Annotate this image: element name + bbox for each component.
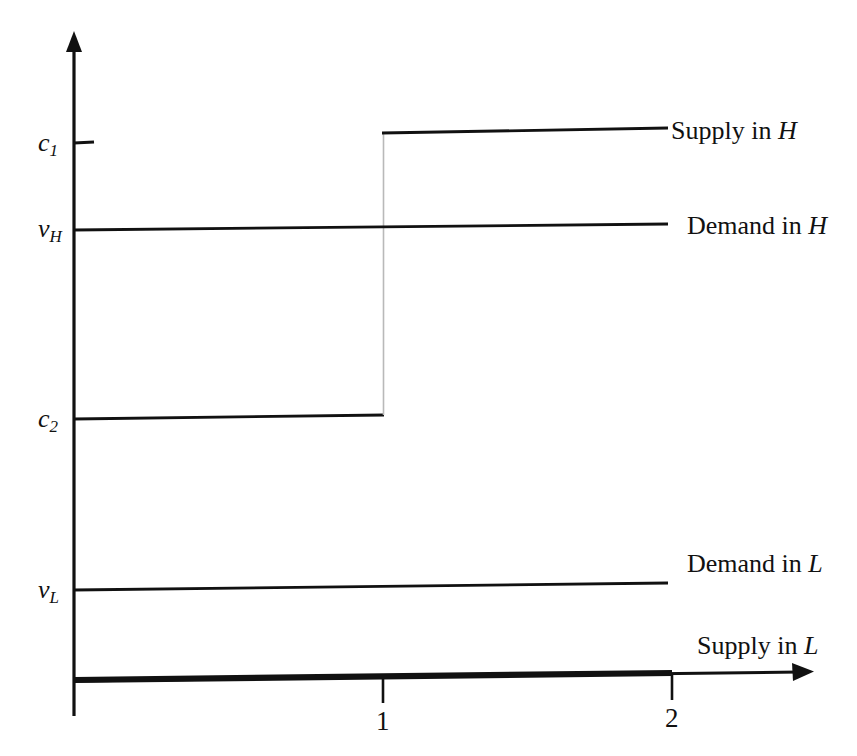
- curve-supply-in-l: [75, 673, 672, 680]
- supply-demand-figure: c1 vH c2 vL 1 2 Supply in H Demand in H …: [0, 0, 857, 756]
- curve-demand-in-h: [74, 224, 668, 230]
- y-axis-arrowhead: [66, 31, 82, 52]
- curve-label-supply-in-l: Supply in L: [697, 633, 818, 659]
- x-axis-arrowhead: [792, 663, 814, 681]
- y-label-c1: c1: [38, 130, 58, 159]
- demand-h-line: [74, 224, 668, 230]
- supply-h-lower-step: [74, 415, 384, 419]
- curve-label-demand-in-h: Demand in H: [687, 213, 827, 239]
- supply-l-bold-line: [75, 673, 672, 680]
- demand-l-line: [74, 583, 668, 590]
- x-tick-label-2: 2: [665, 705, 679, 732]
- y-label-vh: vH: [38, 216, 62, 245]
- curve-demand-in-l: [74, 583, 668, 590]
- y-label-c2: c2: [38, 406, 58, 435]
- x-tick-label-1: 1: [376, 708, 390, 735]
- y-label-vl: vL: [38, 577, 59, 606]
- y-tick-c1: [74, 142, 94, 143]
- supply-h-upper-step: [382, 128, 668, 133]
- curve-label-supply-in-h: Supply in H: [671, 118, 797, 144]
- curve-supply-in-h: [74, 128, 668, 419]
- curve-label-demand-in-l: Demand in L: [687, 551, 823, 577]
